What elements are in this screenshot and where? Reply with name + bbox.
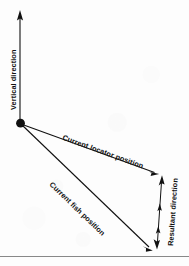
label-current-fish-position: Current fish position — [48, 180, 108, 238]
resultant-direction-arrow-shaft — [157, 181, 161, 245]
resultant-direction-arrowhead-down-icon — [154, 239, 160, 249]
origin-node-dot — [16, 119, 25, 128]
resultant-direction-arrow-group — [154, 175, 165, 249]
vector-diagram: Vertical direction Current locator posit… — [0, 0, 189, 266]
label-resultant-direction: Resultant direction — [166, 177, 180, 246]
figure-container: Vertical direction Current locator posit… — [0, 0, 189, 266]
label-current-locator-position: Current locator position — [61, 133, 145, 171]
label-vertical-direction: Vertical direction — [9, 49, 18, 110]
current-fish-position-arrowhead-icon — [143, 246, 153, 252]
